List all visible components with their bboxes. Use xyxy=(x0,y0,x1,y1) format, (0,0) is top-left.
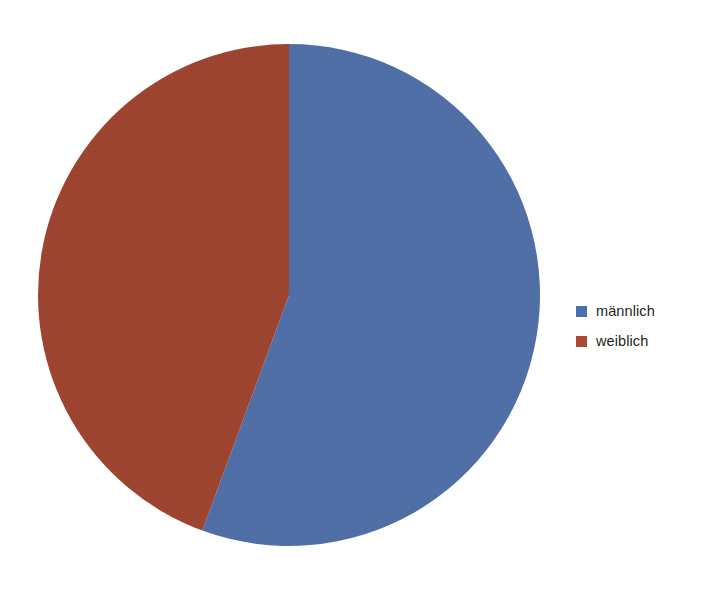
pie-svg xyxy=(0,0,580,590)
legend-item-maennlich[interactable]: männlich xyxy=(576,296,702,326)
legend-item-weiblich[interactable]: weiblich xyxy=(576,326,702,356)
legend-label-maennlich: männlich xyxy=(596,304,655,319)
pie-chart: männlich weiblich xyxy=(0,0,705,590)
legend-label-weiblich: weiblich xyxy=(596,334,648,349)
legend: männlich weiblich xyxy=(576,296,702,356)
legend-swatch-maennlich xyxy=(576,306,587,317)
legend-swatch-weiblich xyxy=(576,336,587,347)
pie-plot-area xyxy=(0,0,580,590)
